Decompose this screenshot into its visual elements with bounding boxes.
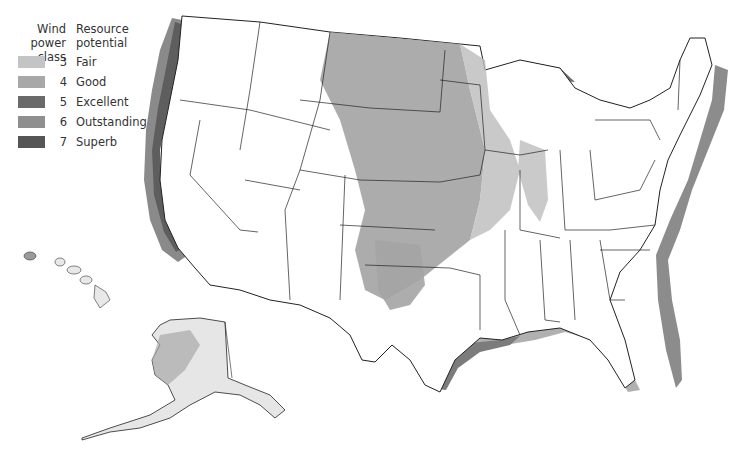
wind-resource-map <box>0 0 739 457</box>
hawaii <box>24 252 110 308</box>
